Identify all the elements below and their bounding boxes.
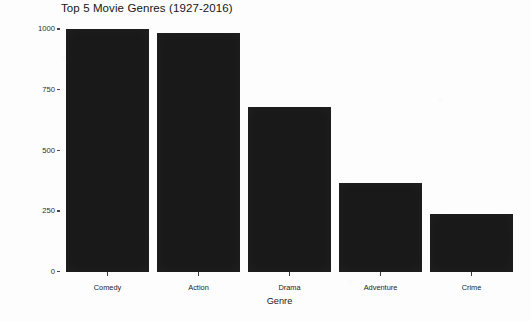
y-axis-tick-mark [57,150,60,151]
chart-figure: Top 5 Movie Genres (1927-2016) Number of… [0,0,531,321]
x-axis-tick-mark [471,272,472,276]
x-axis-tick-label: Comedy [62,283,153,293]
y-axis-tick: 500 [20,146,62,156]
y-axis-tick: 1000 [20,24,62,34]
y-axis-tick-mark [57,89,60,90]
x-axis-tick-mark [107,272,108,276]
bar [157,33,240,272]
x-axis-tick-label: Action [153,283,244,293]
y-axis-tick-label: 500 [42,146,55,156]
y-axis-tick: 750 [20,85,62,95]
y-axis-tick: 0 [20,267,62,277]
x-axis-tick-label: Drama [244,283,335,293]
y-axis-tick-mark [57,28,60,29]
bar [430,214,513,272]
chart-title: Top 5 Movie Genres (1927-2016) [61,1,233,15]
bar [66,29,149,272]
y-axis-tick-label: 0 [51,267,55,277]
y-axis-tick-mark [57,271,60,272]
y-axis-tick-label: 750 [42,85,55,95]
x-axis-tick-mark [289,272,290,276]
plot-area: 02505007501000 ComedyActionDramaAdventur… [62,22,517,272]
y-axis-tick-label: 250 [42,206,55,216]
x-axis-label: Genre [0,296,531,306]
bar [248,107,331,272]
x-axis-tick-label: Crime [426,283,517,293]
y-axis-tick: 250 [20,206,62,216]
y-axis-tick-mark [57,210,60,211]
x-axis-tick-mark [380,272,381,276]
x-axis-tick-mark [198,272,199,276]
bar [339,183,422,272]
x-axis-tick-label: Adventure [335,283,426,293]
y-axis-tick-label: 1000 [38,24,55,34]
